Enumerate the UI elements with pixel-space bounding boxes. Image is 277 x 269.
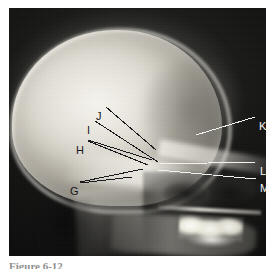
sinus-lucency-anterior (163, 182, 207, 204)
lower-dental-region (186, 233, 238, 250)
skull-radiograph-image (9, 8, 266, 256)
annotation-label-k: K (259, 121, 266, 132)
figure-container: GHIJKLM Figure 6-12 (0, 0, 277, 269)
annotation-label-j: J (96, 111, 102, 122)
posterior-neck-shadow (40, 201, 91, 256)
annotation-label-g: G (70, 186, 79, 197)
figure-caption: Figure 6-12 (9, 260, 63, 269)
annotation-label-i: I (87, 125, 90, 136)
annotation-label-m: M (260, 183, 269, 194)
annotation-label-h: H (76, 145, 84, 156)
sinus-lucency-posterior (209, 179, 250, 204)
annotation-label-l: L (260, 166, 266, 177)
